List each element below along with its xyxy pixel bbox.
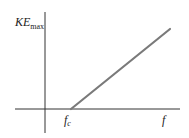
data-line: [71, 29, 170, 109]
ke-vs-frequency-chart: KEmax fc f: [0, 0, 189, 138]
x-axis-label: f: [162, 113, 167, 127]
threshold-frequency-label: fc: [64, 113, 71, 128]
y-axis-label: KEmax: [14, 15, 44, 31]
